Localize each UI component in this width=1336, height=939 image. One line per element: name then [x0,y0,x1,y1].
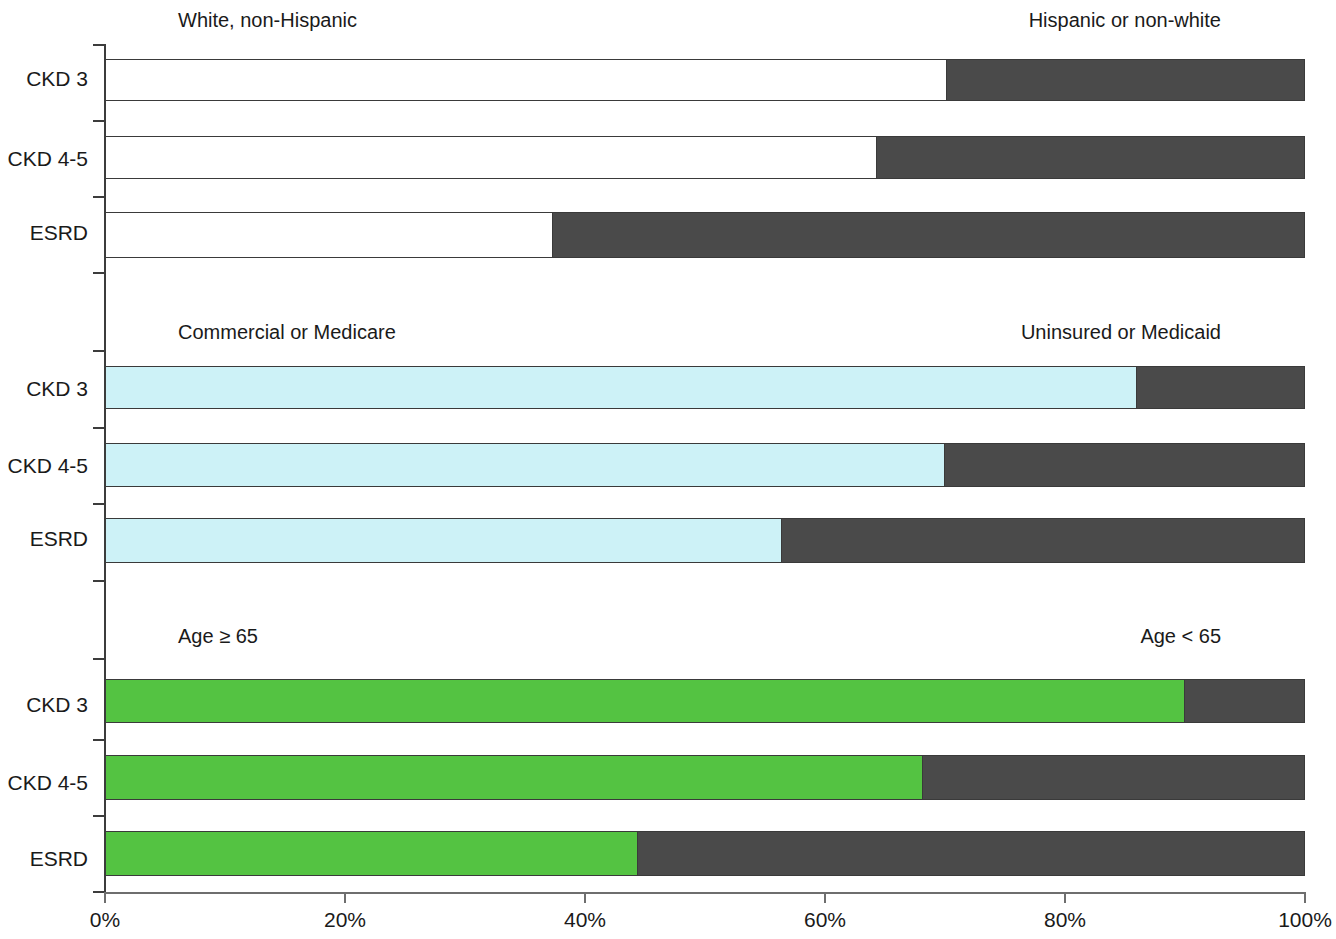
cat-label-age-ckd3: CKD 3 [0,694,88,716]
panel-insurance-right-label: Uninsured or Medicaid [1021,320,1221,344]
segment-age-0-right [1184,679,1305,723]
y-tick-3 [93,272,105,274]
segment-race-2-right [552,212,1305,258]
segment-age-0-left [105,679,1185,723]
cat-label-race-ckd3: CKD 3 [0,68,88,90]
segment-age-1-left [105,755,923,800]
cat-label-insurance-ckd3: CKD 3 [0,378,88,400]
y-tick-6 [93,503,105,505]
y-tick-9 [93,739,105,741]
segment-age-2-left [105,831,638,876]
x-tick-40 [584,892,586,903]
bar-race-ckd3 [105,59,1305,101]
segment-insurance-0-right [1136,366,1305,409]
bar-insurance-ckd3 [105,366,1305,409]
x-tick-label-60: 60% [765,908,885,932]
panel-age-left-label: Age ≥ 65 [178,624,258,648]
x-tick-100 [1304,892,1306,903]
bar-insurance-ckd45 [105,443,1305,487]
segment-insurance-2-right [781,518,1305,563]
x-tick-label-40: 40% [525,908,645,932]
x-tick-label-0: 0% [45,908,165,932]
segment-race-1-left [105,136,877,179]
x-tick-20 [344,892,346,903]
cat-label-race-ckd45: CKD 4-5 [0,148,88,170]
segment-race-1-right [876,136,1305,179]
y-tick-7 [93,580,105,582]
y-tick-0 [93,44,105,46]
y-tick-8 [93,658,105,660]
panel-age-right-label: Age < 65 [1140,624,1221,648]
y-tick-1 [93,120,105,122]
bar-age-ckd3 [105,679,1305,723]
y-tick-4 [93,350,105,352]
cat-label-insurance-ckd45: CKD 4-5 [0,455,88,477]
bar-age-esrd [105,831,1305,876]
x-tick-label-20: 20% [285,908,405,932]
segment-insurance-1-right [944,443,1305,487]
x-tick-60 [824,892,826,903]
cat-label-insurance-esrd: ESRD [0,528,88,550]
x-tick-label-80: 80% [1005,908,1125,932]
segment-insurance-0-left [105,366,1137,409]
bar-race-esrd [105,212,1305,258]
y-tick-5 [93,427,105,429]
segment-insurance-1-left [105,443,945,487]
segment-age-1-right [922,755,1305,800]
panel-race-right-label: Hispanic or non-white [1029,8,1221,32]
cat-label-race-esrd: ESRD [0,222,88,244]
x-tick-80 [1064,892,1066,903]
segment-race-0-left [105,59,947,101]
bar-insurance-esrd [105,518,1305,563]
segment-insurance-2-left [105,518,782,563]
segment-race-2-left [105,212,553,258]
panel-insurance-left-label: Commercial or Medicare [178,320,396,344]
y-tick-2 [93,196,105,198]
x-tick-0 [104,892,106,903]
segment-age-2-right [637,831,1305,876]
y-tick-10 [93,815,105,817]
y-axis-line [104,44,106,893]
cat-label-age-esrd: ESRD [0,848,88,870]
x-axis-line [104,892,1306,894]
cat-label-age-ckd45: CKD 4-5 [0,772,88,794]
x-tick-label-100: 100% [1245,908,1336,932]
bar-age-ckd45 [105,755,1305,800]
bar-race-ckd45 [105,136,1305,179]
segment-race-0-right [946,59,1305,101]
panel-race-left-label: White, non-Hispanic [178,8,357,32]
